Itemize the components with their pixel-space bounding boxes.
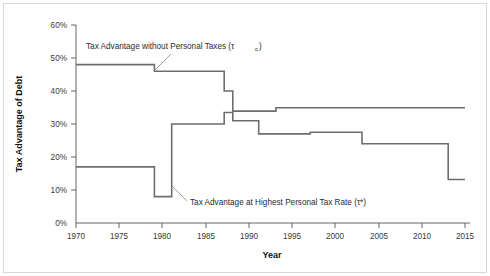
- annotation-upper-subscript: c: [255, 46, 258, 52]
- series-line-tau-c: [76, 65, 465, 112]
- x-tick-label-2005: 2005: [370, 232, 389, 241]
- y-tick-label-0: 0%: [55, 219, 67, 228]
- x-tick-label-1985: 1985: [197, 232, 216, 241]
- x-axis-title: Year: [262, 250, 282, 260]
- chart-figure: 60% 50% 40% 30% 20% 10% 0% 1970 1975 198…: [0, 0, 490, 276]
- x-tick-label-1980: 1980: [153, 232, 172, 241]
- x-tick-label-1970: 1970: [67, 232, 86, 241]
- x-tick-label-1995: 1995: [283, 232, 302, 241]
- y-tick-label-40: 40%: [51, 87, 67, 96]
- axes-group: [76, 25, 470, 223]
- y-tick-labels: 60% 50% 40% 30% 20% 10% 0%: [51, 21, 67, 228]
- x-tick-label-2015: 2015: [456, 232, 475, 241]
- annotation-lower-leader: [172, 186, 187, 201]
- x-tick-label-2000: 2000: [326, 232, 345, 241]
- x-tick-label-1990: 1990: [240, 232, 259, 241]
- annotation-upper-text: Tax Advantage without Personal Taxes (τ: [86, 42, 235, 51]
- y-tick-label-20: 20%: [51, 153, 67, 162]
- x-tick-label-2010: 2010: [413, 232, 432, 241]
- x-tick-label-1975: 1975: [110, 232, 129, 241]
- y-tick-label-30: 30%: [51, 120, 67, 129]
- tax-advantage-step-chart: 60% 50% 40% 30% 20% 10% 0% 1970 1975 198…: [0, 0, 490, 276]
- y-tick-label-10: 10%: [51, 186, 67, 195]
- annotation-lower: Tax Advantage at Highest Personal Tax Ra…: [172, 186, 366, 207]
- y-tick-marks: [71, 25, 76, 190]
- annotation-upper-leader: [154, 54, 171, 71]
- annotation-upper-suffix: ): [259, 42, 262, 51]
- series-line-tau-star: [76, 113, 465, 197]
- x-tick-marks: [76, 223, 465, 228]
- y-tick-label-50: 50%: [51, 54, 67, 63]
- x-tick-labels: 1970 1975 1980 1985 1990 1995 2000 2005 …: [67, 232, 475, 241]
- annotation-lower-text: Tax Advantage at Highest Personal Tax Ra…: [190, 198, 366, 207]
- y-axis-title: Tax Advantage of Debt: [14, 76, 24, 173]
- y-tick-label-60: 60%: [51, 21, 67, 30]
- annotation-upper: Tax Advantage without Personal Taxes (τ …: [86, 42, 262, 71]
